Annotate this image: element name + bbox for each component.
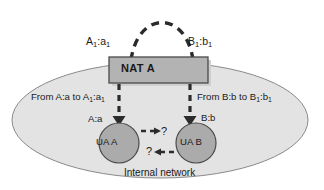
nat-box-label: NAT A bbox=[121, 63, 155, 74]
node-ua-b-address: B:b bbox=[201, 113, 215, 123]
external-address-left: A1:a1 bbox=[86, 36, 110, 47]
internal-network-label: Internal network bbox=[124, 168, 195, 178]
unknown-marker-top: ? bbox=[161, 126, 167, 137]
nat-diagram: A1:a1 B1:b1 NAT A From A:a to A1:a1 From… bbox=[0, 0, 324, 190]
external-address-right: B1:b1 bbox=[188, 36, 212, 47]
translation-label-right: From B:b to B1:b1 bbox=[197, 92, 272, 102]
unknown-marker-bottom: ? bbox=[146, 146, 152, 157]
node-ua-b-label: UA B bbox=[180, 137, 202, 147]
node-ua-a-label: UA A bbox=[96, 137, 117, 147]
node-ua-a-address: A:a bbox=[88, 114, 102, 124]
translation-label-left: From A:a to A1:a1 bbox=[31, 92, 105, 102]
external-loop-arc bbox=[131, 23, 193, 61]
